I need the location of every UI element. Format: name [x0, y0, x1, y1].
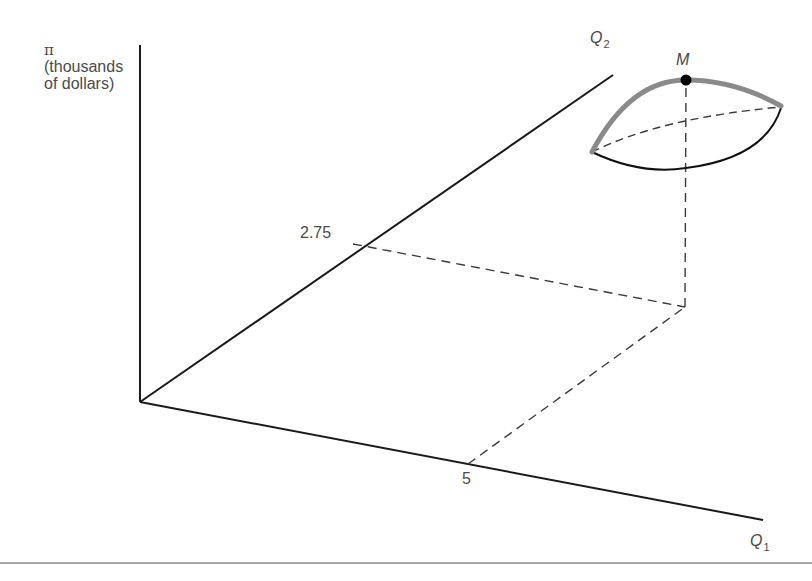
- q1-axis-subscript: 1: [763, 541, 769, 553]
- q1-axis: [140, 402, 763, 520]
- vertical-projection-line: [685, 80, 686, 307]
- q2-axis-subscript: 2: [603, 38, 609, 50]
- q1-projection-line: [468, 307, 685, 464]
- q2-tick-label: 2.75: [300, 225, 331, 242]
- q2-axis-label: Q2: [590, 30, 609, 47]
- q1-tick-label: 5: [462, 471, 471, 488]
- q2-axis-letter: Q: [590, 29, 602, 46]
- surface-bottom-edge: [592, 108, 781, 170]
- q1-axis-letter: Q: [750, 532, 762, 549]
- maximum-point-M: [681, 75, 692, 86]
- pi-symbol: π: [44, 43, 123, 59]
- q1-axis-label: Q1: [750, 533, 769, 550]
- pi-axis-label: π (thousands of dollars): [44, 43, 123, 92]
- q2-projection-line: [353, 244, 685, 307]
- pi-unit-line1: (thousands: [44, 59, 123, 76]
- q2-axis: [140, 75, 613, 402]
- maximum-point-label: M: [676, 52, 689, 69]
- pi-unit-line2: of dollars): [44, 76, 123, 93]
